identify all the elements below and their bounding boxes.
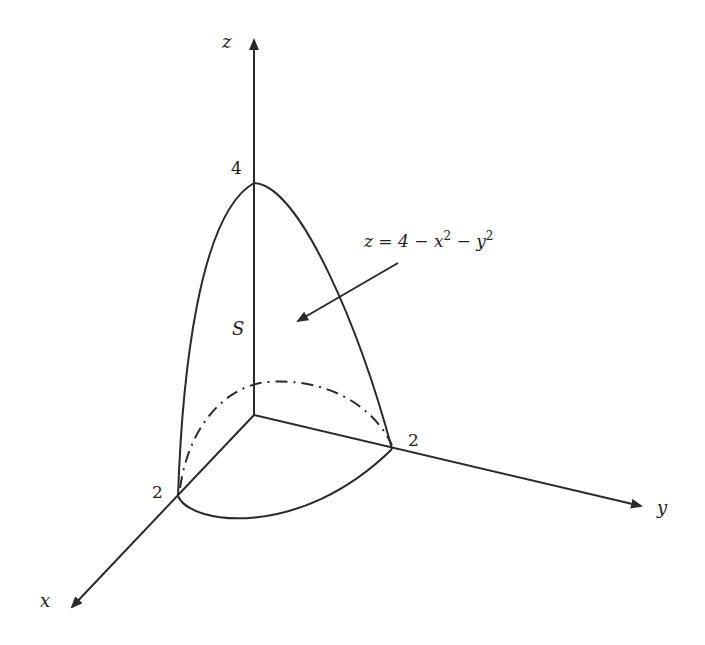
hidden-dashdot-arc <box>180 382 392 488</box>
surface-label: S <box>232 318 244 339</box>
equation-lhs: z = 4 − x <box>363 231 444 251</box>
x-axis <box>72 415 254 607</box>
x-intercept-label: 2 <box>152 482 163 502</box>
y-intercept-label: 2 <box>408 430 419 450</box>
z-axis-label: z <box>221 31 232 52</box>
yz-parabola-curve <box>254 183 392 449</box>
xz-parabola-curve <box>178 183 254 496</box>
paraboloid-diagram: z x y 4 2 2 S z = 4 − x2 − y2 <box>0 0 705 645</box>
equation-exp2: 2 <box>486 229 494 243</box>
equation-mid: − y <box>451 231 486 251</box>
y-axis-label: y <box>656 497 668 518</box>
z-intercept-label: 4 <box>231 158 242 178</box>
base-arc <box>178 449 392 518</box>
y-axis <box>254 415 641 506</box>
equation-label: z = 4 − x2 − y2 <box>363 229 493 251</box>
x-axis-label: x <box>40 590 50 611</box>
equation-exp1: 2 <box>443 229 451 243</box>
equation-pointer-arrow <box>298 263 398 321</box>
